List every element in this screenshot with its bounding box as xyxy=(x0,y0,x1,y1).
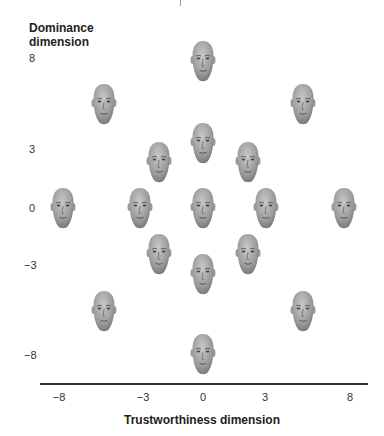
y-tick-minus-8: −8 xyxy=(24,349,37,361)
face-icon xyxy=(235,141,261,185)
y-tick-3: 3 xyxy=(29,143,35,155)
y-axis-title-line1: Dominance xyxy=(29,21,94,35)
x-axis-title: Trustworthiness dimension xyxy=(0,413,384,427)
face-icon xyxy=(190,253,216,297)
face-icon xyxy=(331,187,357,231)
face-icon xyxy=(253,187,279,231)
face-icon xyxy=(50,187,76,231)
y-axis-title: Dominance dimension xyxy=(29,21,94,49)
face-icon xyxy=(190,40,216,84)
face-icon xyxy=(127,187,153,231)
x-tick-3: 3 xyxy=(262,391,268,403)
face-icon xyxy=(235,233,261,277)
x-tick-minus-8: −8 xyxy=(53,391,66,403)
x-axis-line xyxy=(40,383,368,385)
face-icon xyxy=(91,83,117,127)
y-tick-8: 8 xyxy=(29,52,35,64)
y-tick-minus-3: −3 xyxy=(24,259,37,271)
x-tick-minus-3: −3 xyxy=(137,391,150,403)
y-axis-title-line2: dimension xyxy=(29,35,94,49)
face-icon xyxy=(146,233,172,277)
top-tick-mark xyxy=(180,0,181,6)
face-icon xyxy=(190,187,216,231)
face-icon xyxy=(146,141,172,185)
face-icon xyxy=(190,333,216,377)
face-icon xyxy=(290,290,316,334)
x-tick-8: 8 xyxy=(347,391,353,403)
face-icon xyxy=(91,290,117,334)
face-icon xyxy=(290,83,316,127)
face-icon xyxy=(190,122,216,166)
y-tick-0: 0 xyxy=(29,202,35,214)
x-tick-0: 0 xyxy=(200,391,206,403)
